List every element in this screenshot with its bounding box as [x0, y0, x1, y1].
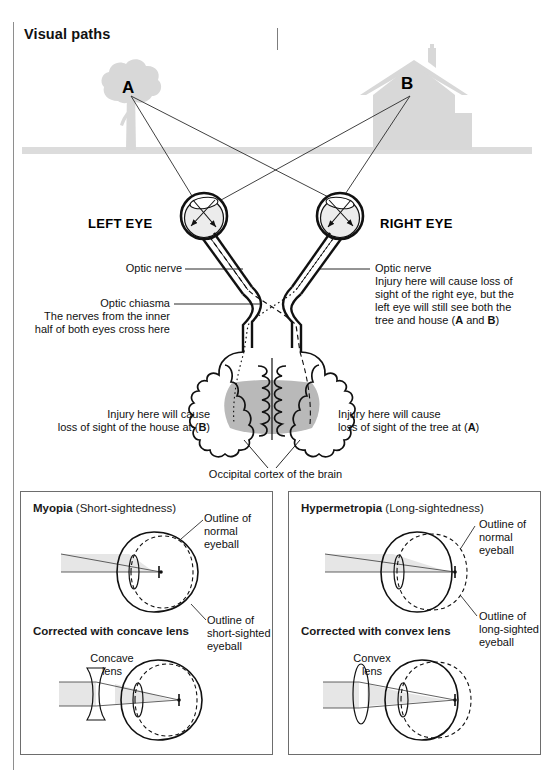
optic-nerve-right-desc-line3: left eye will still see both the [375, 301, 555, 315]
optic-chiasma-desc-line1: The nerves from the inner [20, 310, 170, 324]
injury-right-line2: loss of sight of the tree at (A) [338, 421, 538, 435]
left-eye-label: LEFT EYE [88, 216, 153, 231]
injury-left-line1: Injury here will cause [25, 408, 210, 422]
hypermetropia-lens-label-line1: Convex [337, 652, 407, 666]
hypermetropia-corrected-title: Corrected with convex lens [301, 625, 451, 637]
hypermetropia-condition-outline-line2: long-sighted [479, 623, 549, 637]
hypermetropia-normal-outline-line1: Outline of [479, 518, 549, 532]
right-eye [292, 193, 363, 294]
optic-chiasma-desc-line2: half of both eyes cross here [20, 323, 170, 337]
hypermetropia-condition-outline-line1: Outline of [479, 610, 549, 624]
tree-house-text-b: B [488, 314, 496, 326]
tree-house-text-a: A [455, 314, 463, 326]
left-eye [181, 193, 252, 294]
occipital-cortex [189, 352, 355, 457]
myopia-condition-outline-line2: short-sighted [207, 627, 277, 641]
right-eye-label: RIGHT EYE [380, 216, 453, 231]
myopia-condition-outline-line3: eyeball [207, 640, 277, 654]
house-silhouette [360, 44, 472, 150]
injury-right-line1: Injury here will cause [338, 408, 538, 422]
myopia-lens-label-line2: lens [77, 665, 147, 679]
myopia-corrected-title: Corrected with concave lens [33, 625, 189, 637]
injury-right-pre: loss of sight of the tree at ( [338, 421, 468, 433]
myopia-panel: Myopia (Short-sightedness) [20, 491, 273, 755]
injury-left-post: ) [206, 421, 210, 433]
myopia-normal-outline-line2: normal [204, 525, 274, 539]
source-label-a: A [122, 78, 134, 98]
injury-right-post: ) [476, 421, 480, 433]
myopia-lens-label-line1: Concave [77, 652, 147, 666]
hypermetropia-condition-outline-line3: eyeball [479, 636, 549, 650]
optic-nerve-right-desc-line4: tree and house (A and B) [375, 314, 555, 328]
injury-right-bold: A [468, 421, 476, 433]
source-label-b: B [401, 74, 413, 94]
tree-house-text-post: ) [496, 314, 500, 326]
optic-nerve-left-label: Optic nerve [30, 262, 182, 276]
hypermetropia-panel: Hypermetropia (Long-sightedness) [288, 491, 541, 755]
tree-house-text-mid: and [463, 314, 487, 326]
diagram-page: Visual paths [0, 0, 555, 775]
tree-silhouette [102, 59, 162, 150]
myopia-normal-outline-line1: Outline of [204, 512, 274, 526]
injury-left-line2: loss of sight of the house at (B) [25, 421, 210, 435]
injury-left-pre: loss of sight of the house at ( [58, 421, 199, 433]
hypermetropia-normal-outline-line3: eyeball [479, 544, 549, 558]
hypermetropia-lens-label-line2: lens [337, 665, 407, 679]
myopia-normal-outline-line3: eyeball [204, 538, 274, 552]
occipital-cortex-label: Occipital cortex of the brain [178, 468, 373, 482]
tree-house-text-pre: tree and house ( [375, 314, 455, 326]
myopia-condition-outline-line1: Outline of [207, 614, 277, 628]
hypermetropia-normal-outline-line2: normal [479, 531, 549, 545]
optic-chiasma-label: Optic chiasma [20, 297, 170, 311]
optic-nerve-right-label: Optic nerve [375, 262, 550, 276]
optic-nerve-right-desc-line1: Injury here will cause loss of [375, 275, 555, 289]
optic-nerve-right-desc-line2: sight of the right eye, but the [375, 288, 555, 302]
